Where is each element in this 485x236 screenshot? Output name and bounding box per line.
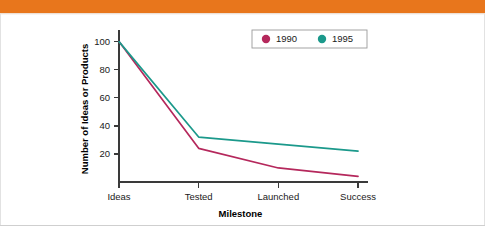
legend-marker-1990: [262, 35, 270, 43]
legend-label-1995: 1995: [332, 33, 353, 44]
y-tick-label: 80: [99, 64, 110, 75]
x-tick-label: Tested: [185, 191, 213, 202]
y-tick-label: 100: [94, 36, 110, 47]
series-line-1995: [119, 42, 358, 152]
figure-root: 20406080100 IdeasTestedLaunchedSuccess N…: [0, 0, 485, 236]
y-axis-title: Number of Ideas or Products: [79, 44, 90, 174]
x-axis-title: Milestone: [219, 208, 263, 219]
legend-marker-1995: [318, 35, 326, 43]
chart-canvas: 20406080100 IdeasTestedLaunchedSuccess N…: [0, 14, 485, 225]
x-tick-label: Launched: [257, 191, 299, 202]
x-tick-label: Success: [340, 191, 376, 202]
y-axis-ticks: 20406080100: [94, 36, 119, 159]
line-chart: 20406080100 IdeasTestedLaunchedSuccess N…: [0, 14, 485, 225]
series-line-1990: [119, 42, 358, 177]
legend-label-1990: 1990: [276, 33, 297, 44]
x-axis-ticks: IdeasTestedLaunchedSuccess: [107, 182, 376, 202]
y-tick-label: 40: [99, 120, 110, 131]
frame-border-bottom: [0, 225, 485, 226]
orange-header-band: [0, 0, 485, 13]
chart-legend[interactable]: 19901995: [252, 30, 367, 48]
data-series-group: [119, 42, 358, 177]
y-tick-label: 20: [99, 148, 110, 159]
x-tick-label: Ideas: [107, 191, 130, 202]
y-tick-label: 60: [99, 92, 110, 103]
